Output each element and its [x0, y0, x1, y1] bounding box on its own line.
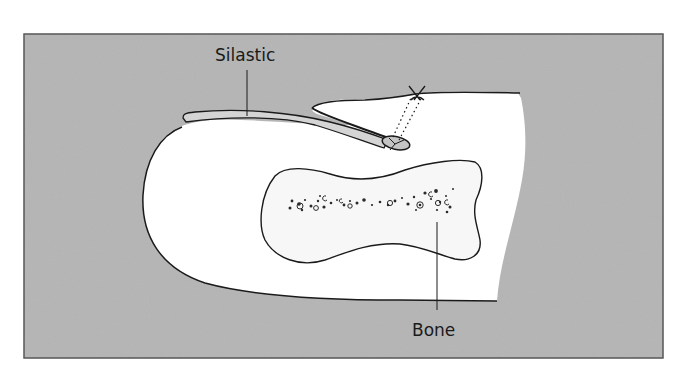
fingertip-diagram: Silastic Bone [0, 0, 687, 374]
silastic-label: Silastic [215, 45, 275, 65]
bone-label: Bone [412, 320, 455, 340]
